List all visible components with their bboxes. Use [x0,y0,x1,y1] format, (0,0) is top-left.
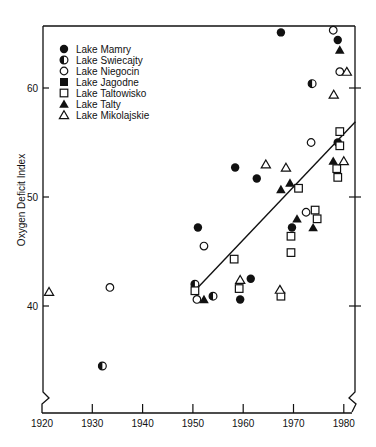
data-point-open-square [334,174,342,182]
data-point-open-square [295,184,303,192]
data-point-half-filled-circle [98,362,106,370]
y-tick-label: 60 [27,83,39,94]
x-tick-label: 1960 [232,418,255,429]
data-point-open-circle [193,296,201,304]
legend-label: Lake Taltowisko [76,88,147,99]
legend-marker-half-filled-circle [60,56,68,64]
data-point-open-triangle [236,276,245,284]
data-point-open-triangle [339,157,348,165]
x-tick-label: 1980 [333,418,356,429]
data-point-filled-circle [253,174,261,182]
data-point-open-square [287,232,295,240]
data-point-open-triangle [281,163,290,171]
legend-marker-filled-square [60,78,68,86]
right-frame-line [349,26,356,412]
data-point-filled-circle [288,223,296,231]
data-point-open-triangle [44,288,53,296]
data-point-open-circle [200,242,208,250]
data-point-open-square [235,285,243,293]
data-point-filled-triangle [285,178,295,186]
data-point-open-circle [302,208,310,216]
data-point-half-filled-circle [308,80,316,88]
data-point-open-circle [307,139,315,147]
data-point-open-square [333,165,341,173]
scatter-chart: 1920193019401950196019701980 405060 Oxyg… [0,0,376,447]
data-point-filled-circle [334,36,342,44]
data-point-filled-triangle [335,45,345,53]
legend-marker-open-square [60,89,68,97]
legend-label: Lake Jagodne [76,77,139,88]
data-point-open-circle [106,284,114,292]
data-point-open-square [336,128,344,136]
data-point-open-triangle [261,160,270,168]
legend-marker-filled-triangle [59,99,69,107]
data-point-open-triangle [329,90,338,98]
legend-label: Lake Swiecajty [76,55,143,66]
legend-label: Lake Mikolajskie [76,110,150,121]
legend: Lake MamryLake SwiecajtyLake NiegocinLak… [59,44,150,121]
x-axis-ticks: 1920193019401950196019701980 [31,404,355,429]
data-point-filled-triangle [328,156,338,164]
y-axis-title: Oxygen Deficit Index [16,154,27,246]
x-tick-label: 1940 [131,418,154,429]
x-tick-label: 1920 [31,418,54,429]
x-tick-label: 1950 [182,418,205,429]
data-point-open-square [336,142,344,150]
data-point-filled-circle [277,28,285,36]
data-point-open-square [313,215,321,223]
data-point-open-circle [329,26,337,34]
data-point-half-filled-circle [209,292,217,300]
data-point-filled-triangle [276,185,286,193]
y-tick-label: 50 [27,192,39,203]
data-point-filled-triangle [292,214,302,222]
data-point-filled-circle [236,295,244,303]
legend-label: Lake Niegocin [76,66,139,77]
data-point-filled-circle [194,223,202,231]
data-point-open-triangle [275,285,284,293]
data-point-open-square [311,206,319,214]
data-point-filled-triangle [308,223,318,231]
legend-marker-filled-circle [60,45,68,53]
x-tick-label: 1970 [282,418,305,429]
data-point-open-square [230,255,238,263]
data-point-filled-circle [231,163,239,171]
y-tick-label: 40 [27,301,39,312]
legend-label: Lake Talty [76,99,121,110]
regression-line [198,122,355,288]
data-point-filled-circle [247,275,255,283]
data-point-open-square [287,249,295,257]
x-tick-label: 1930 [81,418,104,429]
y-axis-line [42,26,49,413]
legend-marker-open-triangle [59,111,68,119]
legend-label: Lake Mamry [76,44,131,55]
legend-marker-open-circle [60,67,68,75]
data-point-open-square [191,287,199,295]
